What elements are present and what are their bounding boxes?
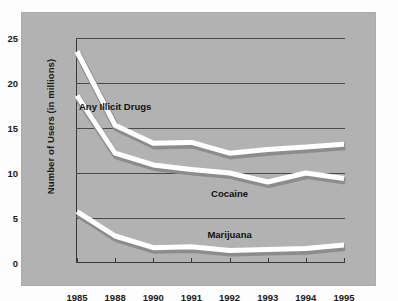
x-tick-label-1991: 1991 [181,292,202,301]
series-label-marijuana: Marijuana [207,229,251,240]
x-tick-label-1995: 1995 [333,292,354,301]
plot-area: 0510152025 19851988199019911992199319941… [76,38,345,263]
x-tick-label-1992: 1992 [219,292,240,301]
y-axis-title: Number of Users (in millions) [45,37,56,217]
y-tick-label-15: 15 [0,123,18,134]
y-tick-label-25: 25 [0,33,18,44]
x-tick-label-1993: 1993 [257,292,278,301]
y-tick-label-20: 20 [0,78,18,89]
y-tick-label-10: 10 [0,168,18,179]
chart-panel: Number of Users (in millions) 0510152025… [22,13,375,285]
series-label-cocaine: Cocaine [211,187,248,198]
x-tick-label-1988: 1988 [105,292,126,301]
series-label-any-illicit-drugs: Any Illicit Drugs [79,100,151,111]
chart-screenshot: Number of Users (in millions) 0510152025… [0,0,398,301]
x-tick-label-1990: 1990 [143,292,164,301]
x-tick-label-1985: 1985 [66,292,87,301]
y-tick-label-0: 0 [0,258,18,269]
y-tick-label-5: 5 [0,213,18,224]
x-tick-label-1994: 1994 [295,292,316,301]
